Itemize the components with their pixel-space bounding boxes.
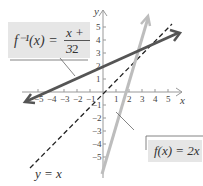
y-tick-label: −5 <box>92 152 102 162</box>
x-tick-label: −2 <box>73 94 83 104</box>
inverse-lhs: f⁻¹(x) = <box>14 32 58 49</box>
x-tick-label: 5 <box>166 94 171 104</box>
y-tick-label: 1 <box>96 74 101 84</box>
inverse-denominator: 2 <box>72 41 79 57</box>
y-tick-label: 4 <box>96 35 101 45</box>
x-tick-label: 4 <box>153 94 158 104</box>
x-tick-label: −5 <box>34 94 44 104</box>
inverse-leader <box>60 58 75 76</box>
y-axis-label: y <box>94 5 99 17</box>
x-tick-label: −3 <box>60 94 70 104</box>
y-tick-label: 5 <box>96 22 101 32</box>
y-tick-label: 3 <box>96 48 101 58</box>
y-tick-label: −4 <box>92 139 102 149</box>
x-axis-label: x <box>180 94 185 106</box>
y-tick-label: −2 <box>92 113 102 123</box>
x-tick-label: 1 <box>114 94 119 104</box>
y-tick-label: −1 <box>92 100 102 110</box>
identity-label: y = x <box>35 166 62 182</box>
y-tick-label: −3 <box>92 126 102 136</box>
x-tick-label: 2 <box>127 94 132 104</box>
inverse-function-label: f⁻¹(x) = x + 3 2 <box>8 22 90 58</box>
x-tick-label: 3 <box>140 94 145 104</box>
x-tick-label: −4 <box>47 94 57 104</box>
y-tick-label: 2 <box>96 61 101 71</box>
function-label: f(x) = 2x − 3 <box>148 140 202 162</box>
